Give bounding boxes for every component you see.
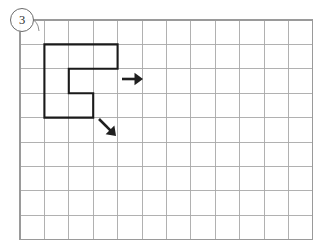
figure-overlay (0, 0, 333, 251)
diagonal-down-right-arrow-shaft (99, 119, 111, 131)
worksheet-canvas: 3 (0, 0, 333, 251)
problem-number-label: 3 (19, 14, 25, 27)
c-shaped-polygon (44, 44, 117, 117)
right-arrow (122, 73, 143, 85)
problem-number-badge: 3 (10, 8, 34, 32)
right-arrow-head (135, 73, 144, 85)
arrows (99, 73, 143, 136)
diagonal-down-right-arrow (99, 119, 116, 136)
